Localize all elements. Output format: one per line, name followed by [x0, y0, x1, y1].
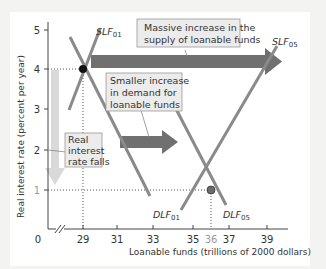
label-dlf05: DLF05 — [223, 209, 250, 222]
demand-annotation-line1: Smaller increase — [110, 75, 189, 86]
curve-slf05 — [181, 46, 277, 210]
rate-annotation-line1: Real — [68, 134, 88, 145]
x-tick-35: 35 — [187, 234, 200, 245]
y-tick-4: 4 — [34, 64, 40, 75]
x-tick-33: 33 — [147, 234, 160, 245]
equilibrium-point-2001 — [79, 65, 87, 73]
x-tick-31: 31 — [111, 234, 124, 245]
label-slf01: SLF01 — [96, 26, 122, 39]
y-axis-title: Real interest rate (percent per year) — [16, 55, 26, 218]
curve-dlf05 — [175, 107, 226, 205]
x-tick-39: 39 — [261, 234, 274, 245]
axis-break-icon — [55, 224, 65, 233]
y-tick-2: 2 — [34, 145, 40, 156]
supply-annotation-line1: Massive increase in the — [144, 22, 256, 33]
x-axis-title: Loanable funds (trillions of 2000 dollar… — [129, 247, 311, 257]
equilibrium-point-2005 — [207, 186, 215, 194]
x-tick-29: 29 — [77, 234, 90, 245]
supply-annotation: Massive increase in the supply of loanab… — [137, 19, 261, 47]
demand-annotation: Smaller increase in demand for loanable … — [106, 73, 189, 111]
chart-stage: Massive increase in the supply of loanab… — [0, 0, 326, 269]
y-tick-5: 5 — [34, 25, 40, 36]
demand-annotation-line3: loanable funds — [110, 99, 180, 110]
rate-annotation-line3: rate falls — [68, 156, 110, 167]
y-tick-3: 3 — [34, 104, 40, 115]
y-tick-1: 1 — [34, 185, 40, 196]
x-tick-36: 36 — [205, 234, 218, 245]
demand-annotation-line2: in demand for — [110, 87, 177, 98]
axes — [44, 22, 288, 229]
rate-annotation: Real interest rate falls — [65, 133, 110, 167]
supply-shift-arrow — [91, 48, 282, 75]
label-dlf01: DLF01 — [153, 209, 180, 222]
rate-annotation-line2: interest — [68, 145, 105, 156]
x-tick-37: 37 — [223, 234, 236, 245]
loanable-funds-chart: Massive increase in the supply of loanab… — [0, 0, 326, 269]
origin-label: 0 — [35, 234, 41, 245]
supply-annotation-line2: supply of loanable funds — [144, 34, 261, 45]
